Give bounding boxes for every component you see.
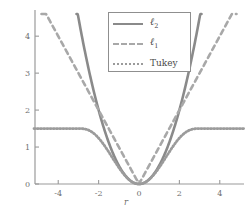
y-tick-label: 4 (25, 32, 30, 41)
x-tick-label: -2 (95, 189, 103, 198)
legend-item-l1[interactable]: ℓ1 (109, 33, 190, 53)
legend-swatch-dashed-line-icon (113, 38, 143, 48)
y-tick-label: 2 (25, 106, 30, 115)
x-tick-label: 4 (217, 189, 222, 198)
chart-legend: ℓ2 ℓ1 Tukey (108, 12, 191, 72)
x-tick-label: 2 (177, 189, 182, 198)
y-tick-label: 0 (25, 180, 30, 189)
legend-swatch-solid-line-icon (113, 18, 143, 28)
legend-item-tukey[interactable]: Tukey (109, 53, 190, 73)
series-line-tukey (34, 129, 244, 184)
y-tick-label: 3 (25, 69, 30, 78)
legend-label-l1: ℓ1 (150, 36, 158, 50)
legend-label-tukey: Tukey (150, 58, 178, 68)
legend-swatch-dotted-line-icon (113, 58, 143, 68)
legend-label-l2: ℓ2 (150, 16, 158, 30)
y-tick-labels-group: 01234 (25, 32, 39, 189)
y-tick-label: 1 (25, 143, 30, 152)
loss-function-chart: -4-2024 01234 r ℓ2 ℓ1 Tukey (0, 0, 252, 217)
x-axis-title: r (124, 197, 129, 207)
legend-item-l2[interactable]: ℓ2 (109, 13, 190, 33)
x-tick-label: -4 (54, 189, 62, 198)
x-tick-label: 0 (136, 189, 141, 198)
